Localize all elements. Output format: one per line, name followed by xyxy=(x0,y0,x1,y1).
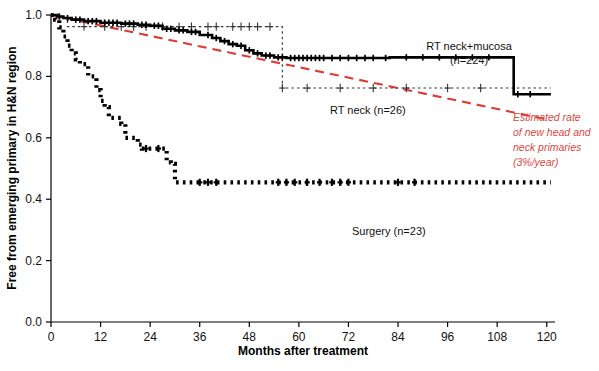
y-tick-label: 0.0 xyxy=(25,315,42,329)
label-rt-neck: RT neck (n=26) xyxy=(330,104,406,116)
series-surgery-censor-marks xyxy=(143,145,417,186)
y-tick-label: 1.0 xyxy=(25,8,42,22)
label-rt-neck-mucosa-n: (n=224) xyxy=(450,54,488,66)
label-rt-neck-mucosa: RT neck+mucosa xyxy=(426,40,512,52)
x-axis-title: Months after treatment xyxy=(238,344,368,358)
x-tick-label: 36 xyxy=(193,330,207,344)
x-tick-label: 12 xyxy=(94,330,108,344)
label-surgery: Surgery (n=23) xyxy=(352,225,426,237)
y-axis-ticks: 0.00.20.40.60.81.0 xyxy=(25,8,51,329)
x-tick-label: 96 xyxy=(441,330,455,344)
x-tick-label: 84 xyxy=(391,330,405,344)
label-estimated-rate-line1: Estimated rate xyxy=(513,111,581,123)
series-estimated-rate-line xyxy=(51,15,547,119)
x-axis-ticks: 01224364860728496108120 xyxy=(48,322,557,344)
y-tick-label: 0.2 xyxy=(25,254,42,268)
y-tick-label: 0.8 xyxy=(25,69,42,83)
x-tick-label: 108 xyxy=(487,330,507,344)
x-tick-label: 0 xyxy=(48,330,55,344)
x-tick-label: 24 xyxy=(143,330,157,344)
label-estimated-rate-line3: neck primaries xyxy=(513,141,582,153)
y-axis-title: Free from emerging primary in H&N region xyxy=(5,46,19,289)
figure-root: 01224364860728496108120 0.00.20.40.60.81… xyxy=(0,0,599,371)
x-tick-label: 60 xyxy=(292,330,306,344)
y-tick-label: 0.6 xyxy=(25,131,42,145)
x-tick-label: 72 xyxy=(342,330,356,344)
x-tick-label: 120 xyxy=(537,330,557,344)
label-estimated-rate-line4: (3%/year) xyxy=(513,156,559,168)
y-tick-label: 0.4 xyxy=(25,192,42,206)
kaplan-meier-chart: 01224364860728496108120 0.00.20.40.60.81… xyxy=(0,0,599,371)
x-tick-label: 48 xyxy=(243,330,257,344)
label-estimated-rate-line2: of new head and xyxy=(513,126,592,138)
